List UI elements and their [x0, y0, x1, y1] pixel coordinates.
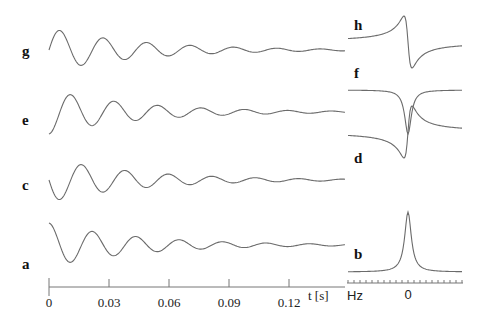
label-g: g — [22, 43, 30, 59]
tick-0.03: 0.03 — [98, 295, 121, 310]
time-axis-title: t [s] — [308, 288, 329, 303]
freq-tick-0: 0 — [404, 287, 411, 302]
figure: g e c a 0 0.03 0.06 0.09 0.12 t [s] h f … — [0, 0, 488, 323]
spectrum-b — [348, 212, 462, 272]
label-h: h — [354, 17, 363, 33]
spectrum-h — [348, 16, 462, 68]
label-a: a — [22, 256, 30, 272]
label-c: c — [22, 177, 29, 193]
time-domain-traces — [49, 30, 345, 262]
tick-0.12: 0.12 — [278, 295, 301, 310]
spectrum-d — [348, 106, 462, 158]
label-b: b — [354, 246, 362, 262]
trace-e — [49, 95, 345, 134]
trace-a — [49, 223, 345, 262]
frequency-domain-traces — [348, 16, 462, 272]
trace-g — [49, 30, 345, 65]
tick-0.06: 0.06 — [158, 295, 181, 310]
freq-axis-title: Hz — [347, 288, 363, 303]
tick-0.09: 0.09 — [218, 295, 241, 310]
frequency-axis: Hz 0 — [347, 280, 463, 303]
spectrum-f — [348, 90, 462, 134]
label-f: f — [354, 65, 360, 81]
tick-0: 0 — [46, 295, 53, 310]
label-d: d — [354, 150, 363, 166]
time-axis: 0 0.03 0.06 0.09 0.12 t [s] — [46, 278, 345, 310]
label-e: e — [22, 112, 29, 128]
trace-c — [49, 165, 345, 200]
